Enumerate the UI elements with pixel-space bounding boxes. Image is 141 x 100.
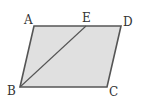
label-E: E	[82, 11, 91, 25]
label-B: B	[7, 84, 16, 98]
parallelogram-diagram: A E D B C	[0, 0, 141, 100]
label-D: D	[123, 15, 133, 29]
label-A: A	[23, 13, 33, 27]
label-C: C	[109, 85, 118, 99]
parallelogram-ABCD	[20, 26, 121, 87]
